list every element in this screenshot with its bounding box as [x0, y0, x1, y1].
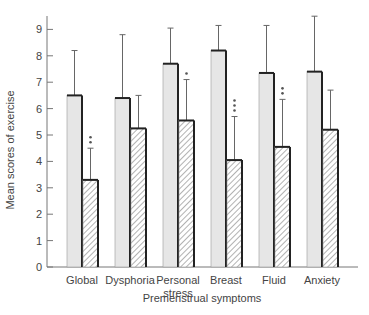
y-tick-label: 7	[36, 76, 42, 88]
y-tick-label: 4	[36, 155, 42, 167]
bar-group-global: Global	[66, 51, 98, 286]
significance-star	[89, 141, 92, 144]
bar-group-anxiety: Anxiety	[304, 16, 341, 286]
y-tick-label: 3	[36, 182, 42, 194]
x-tick-label: Fluid	[262, 274, 286, 286]
significance-star	[233, 99, 236, 102]
x-axis-label: Premenstrual symptoms	[143, 292, 262, 304]
bar	[179, 120, 194, 267]
bar	[115, 98, 130, 267]
bar	[131, 128, 146, 267]
chart-canvas: 0123456789 GlobalDysphoriaPersonalstress…	[0, 0, 369, 315]
x-tick-label: Personal	[156, 274, 199, 286]
y-tick-label: 6	[36, 103, 42, 115]
bar	[83, 180, 98, 267]
bar	[227, 160, 242, 267]
bar	[307, 72, 322, 267]
significance-star	[89, 136, 92, 139]
y-tick-label: 2	[36, 208, 42, 220]
bar	[211, 51, 226, 267]
y-tick-label: 8	[36, 50, 42, 62]
bar	[275, 147, 290, 267]
bar-group-fluid: Fluid	[259, 25, 290, 286]
significance-star	[233, 109, 236, 112]
x-tick-label: Breast	[210, 274, 242, 286]
y-tick-label: 5	[36, 129, 42, 141]
bar	[163, 64, 178, 267]
bar-chart: 0123456789 GlobalDysphoriaPersonalstress…	[0, 0, 369, 315]
bars: GlobalDysphoriaPersonalstressBreastFluid…	[66, 16, 340, 299]
x-tick-label: Dysphoria	[105, 274, 155, 286]
bar-group-breast: Breast	[210, 25, 242, 286]
significance-star	[281, 92, 284, 95]
y-tick-label: 1	[36, 235, 42, 247]
y-tick-label: 9	[36, 23, 42, 35]
bar	[67, 95, 82, 267]
significance-star	[185, 72, 188, 75]
x-tick-label: Anxiety	[304, 274, 341, 286]
significance-star	[281, 87, 284, 90]
bar-group-dysphoria: Dysphoria	[105, 35, 155, 286]
bar	[323, 130, 338, 267]
x-tick-label: Global	[66, 274, 98, 286]
bar-group-personal-stress: Personalstress	[156, 28, 199, 299]
y-axis-label: Mean scores of exercise	[4, 90, 16, 209]
significance-star	[233, 104, 236, 107]
y-tick-label: 0	[36, 261, 42, 273]
bar	[259, 73, 274, 267]
